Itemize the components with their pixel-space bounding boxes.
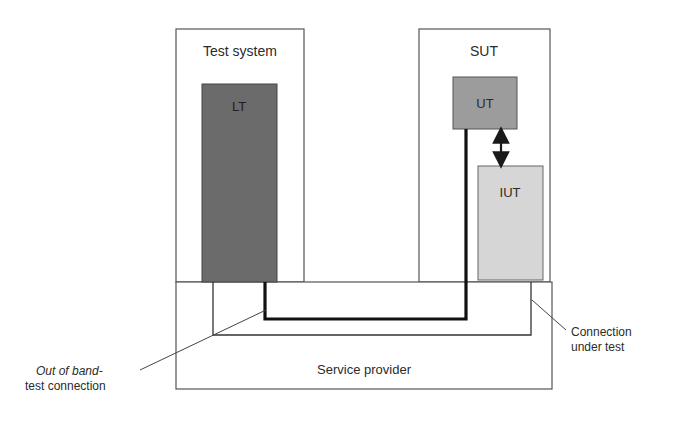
connection-under-test-label-line1: Connection [571, 325, 632, 339]
service-provider-label: Service provider [317, 362, 411, 377]
connection-under-test-label-line2: under test [571, 340, 624, 354]
ut-label: UT [476, 96, 493, 111]
out-of-band-label-line1: Out of band- [36, 364, 103, 378]
out-of-band-label-line2: test connection [25, 379, 106, 393]
test-system-label: Test system [203, 43, 277, 59]
iut-block [478, 166, 543, 280]
lt-label: LT [232, 99, 246, 114]
sut-label: SUT [470, 43, 498, 59]
diagram-canvas [0, 0, 678, 423]
iut-label: IUT [500, 185, 521, 200]
